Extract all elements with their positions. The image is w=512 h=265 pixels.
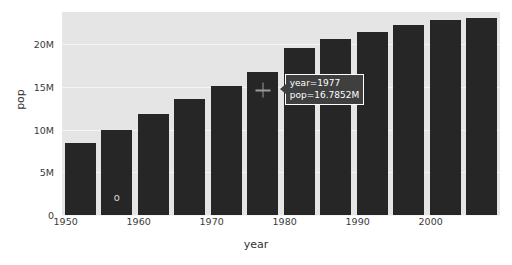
x-tick-label: 1990 bbox=[346, 216, 370, 227]
y-tick-label: 20M bbox=[2, 39, 54, 50]
x-tick-label: 2000 bbox=[419, 216, 443, 227]
x-tick-label: 1960 bbox=[127, 216, 151, 227]
y-tick-label: 5M bbox=[2, 167, 54, 178]
x-axis-title: year bbox=[0, 238, 512, 251]
y-axis-title: pop bbox=[14, 70, 27, 130]
y-tick-label: 10M bbox=[2, 124, 54, 135]
x-tick-label: 1950 bbox=[54, 216, 78, 227]
y-tick-label: 15M bbox=[2, 82, 54, 93]
x-tick-label: 1980 bbox=[273, 216, 297, 227]
bar-chart: oyear=1977pop=16.7852M 05M10M15M20M 1950… bbox=[0, 0, 512, 265]
y-tick-label: 0 bbox=[2, 210, 54, 221]
x-tick-label: 1970 bbox=[200, 216, 224, 227]
